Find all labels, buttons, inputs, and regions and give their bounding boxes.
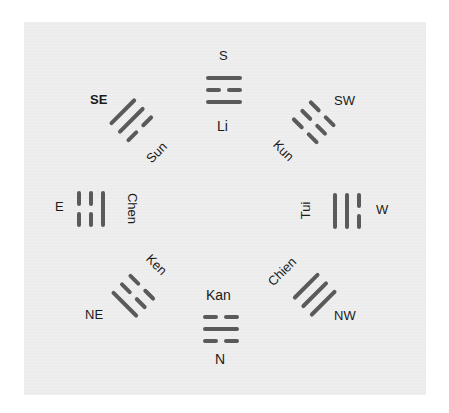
direction-label-s: S: [219, 49, 228, 62]
direction-label-n: N: [215, 352, 225, 366]
trigram-name-kan: Kan: [206, 288, 231, 302]
direction-label-ne: NE: [85, 308, 103, 321]
direction-label-e: E: [55, 200, 64, 213]
direction-label-nw: NW: [334, 309, 356, 322]
trigram-kan: [203, 313, 239, 343]
direction-label-w: W: [376, 203, 388, 216]
trigram-name-li: Li: [217, 119, 228, 133]
trigram-line: [203, 327, 239, 331]
trigram-line: [333, 193, 337, 229]
trigram-line: [206, 88, 242, 92]
trigram-line: [203, 315, 239, 319]
trigram-line: [206, 76, 242, 80]
trigram-line: [345, 193, 349, 229]
trigram-line: [203, 339, 239, 343]
direction-label-se: SE: [90, 93, 107, 106]
trigram-line: [77, 191, 81, 227]
trigram-li: [206, 76, 242, 106]
trigram-name-chen: Chen: [126, 193, 139, 224]
trigram-line: [357, 193, 361, 229]
trigram-name-tui: Tui: [299, 202, 312, 220]
trigram-line: [206, 100, 242, 104]
trigram-line: [101, 191, 105, 227]
trigram-tui: [331, 193, 361, 229]
trigram-line: [89, 191, 93, 227]
direction-label-sw: SW: [334, 94, 355, 107]
trigram-chen: [77, 191, 107, 227]
